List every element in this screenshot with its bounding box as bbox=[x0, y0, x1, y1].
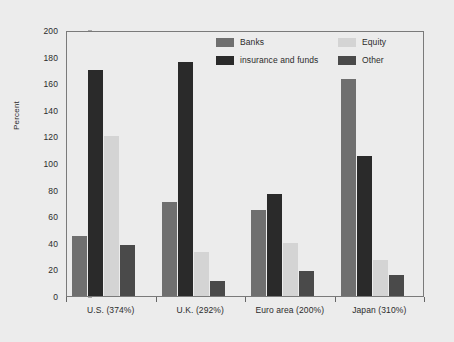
legend-swatch-icon bbox=[216, 38, 234, 47]
y-axis-title: Percent bbox=[12, 60, 26, 130]
x-axis-tick-label: U.K. (292%) bbox=[156, 305, 246, 315]
bar-insurance-and-funds bbox=[267, 194, 282, 296]
bar-equity bbox=[194, 252, 209, 296]
y-axis-tick-label: 120 bbox=[30, 132, 58, 142]
y-axis-tick-label: 60 bbox=[30, 212, 58, 222]
plot-area bbox=[66, 31, 424, 297]
legend-swatch-icon bbox=[216, 56, 234, 65]
chart-legend: BanksEquityinsurance and fundsOther bbox=[216, 36, 426, 70]
x-axis-tick-mark bbox=[66, 297, 67, 302]
y-axis-tick-label: 160 bbox=[30, 79, 58, 89]
bars-container bbox=[67, 32, 423, 296]
legend-item[interactable]: Banks bbox=[216, 36, 264, 48]
y-axis-tick-label: 180 bbox=[30, 53, 58, 63]
legend-item[interactable]: Other bbox=[338, 54, 384, 66]
bar-insurance-and-funds bbox=[88, 70, 103, 296]
legend-item[interactable]: insurance and funds bbox=[216, 54, 318, 66]
legend-item-label: Other bbox=[362, 55, 384, 65]
x-axis-tick-mark bbox=[424, 297, 425, 302]
bar-banks bbox=[341, 79, 356, 296]
bar-group bbox=[67, 32, 157, 296]
bar-insurance-and-funds bbox=[178, 62, 193, 296]
legend-item-label: insurance and funds bbox=[240, 55, 318, 65]
legend-item[interactable]: Equity bbox=[338, 36, 386, 48]
bar-equity bbox=[373, 260, 388, 296]
y-axis-tick-label: 40 bbox=[30, 239, 58, 249]
bar-equity bbox=[283, 243, 298, 296]
y-axis-tick-label: 80 bbox=[30, 186, 58, 196]
y-axis-tick-label: 100 bbox=[30, 159, 58, 169]
bar-equity bbox=[104, 136, 119, 296]
legend-swatch-icon bbox=[338, 56, 356, 65]
y-axis-tick-label: 140 bbox=[30, 106, 58, 116]
bar-banks bbox=[72, 236, 87, 296]
bar-banks bbox=[251, 210, 266, 296]
x-axis-tick-label: Japan (310%) bbox=[335, 305, 425, 315]
x-axis-tick-mark bbox=[156, 297, 157, 302]
bar-other bbox=[120, 245, 135, 296]
bar-group bbox=[246, 32, 336, 296]
bar-other bbox=[299, 271, 314, 296]
bar-group bbox=[157, 32, 247, 296]
x-axis-tick-label: U.S. (374%) bbox=[66, 305, 156, 315]
x-axis-tick-mark bbox=[245, 297, 246, 302]
y-axis-tick-label: 20 bbox=[30, 265, 58, 275]
bar-chart-figure: Percent 200180160140120100806040200 U.S.… bbox=[0, 0, 454, 342]
legend-item-label: Banks bbox=[240, 37, 264, 47]
legend-swatch-icon bbox=[338, 38, 356, 47]
bar-insurance-and-funds bbox=[357, 156, 372, 296]
x-axis-tick-mark bbox=[335, 297, 336, 302]
legend-item-label: Equity bbox=[362, 37, 386, 47]
x-axis-tick-label: Euro area (200%) bbox=[245, 305, 335, 315]
bar-banks bbox=[162, 202, 177, 296]
bar-group bbox=[336, 32, 426, 296]
y-axis-title-label: Percent bbox=[12, 60, 21, 130]
y-axis-tick-label: 0 bbox=[30, 292, 58, 302]
bar-other bbox=[210, 281, 225, 296]
y-axis-ticks: 200180160140120100806040200 bbox=[26, 0, 58, 342]
bar-other bbox=[389, 275, 404, 296]
y-axis-tick-label: 200 bbox=[30, 26, 58, 36]
